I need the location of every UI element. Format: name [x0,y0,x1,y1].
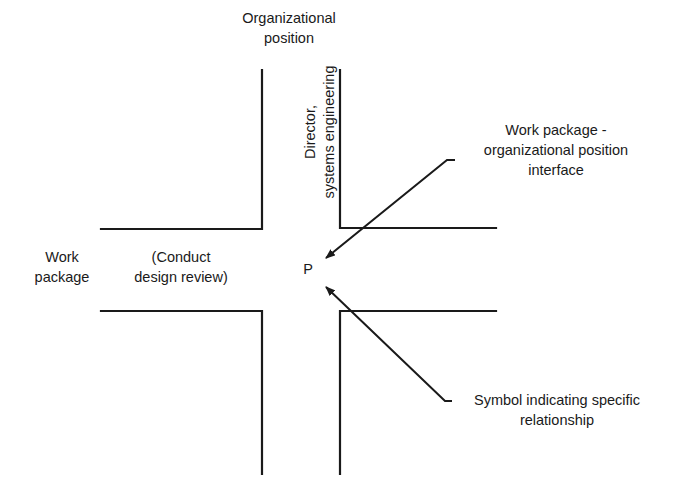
relationship-symbol-p: P [298,259,318,279]
header-line-2: position [214,28,364,48]
conduct-design-review-label: (Conduct design review) [116,247,246,287]
callout-bottom-line-2: relationship [452,410,662,430]
symbol-callout-label: Symbol indicating specific relationship [452,390,662,430]
top-left-corner-line [101,70,262,229]
callout-top-line-1: Work package - [456,120,656,140]
header-line-1: Organizational [214,8,364,28]
work-package-label: Work package [22,247,102,287]
bottom-left-corner-line [101,311,262,474]
callout-top-line-3: interface [456,160,656,180]
interface-callout-label: Work package - organizational position i… [456,120,656,180]
work-package-line-2: package [22,267,102,287]
inner-line-1: (Conduct [116,247,246,267]
vertical-line-2: systems engineering [320,37,339,227]
inner-line-2: design review) [116,267,246,287]
callout-bottom-line-1: Symbol indicating specific [452,390,662,410]
organizational-position-header: Organizational position [214,8,364,48]
director-systems-engineering-label: Director, systems engineering [301,37,341,227]
vertical-line-1: Director, [301,37,320,227]
interface-callout-arrow [326,160,455,258]
work-package-line-1: Work [22,247,102,267]
callout-top-line-2: organizational position [456,140,656,160]
symbol-callout-arrow [326,287,452,401]
